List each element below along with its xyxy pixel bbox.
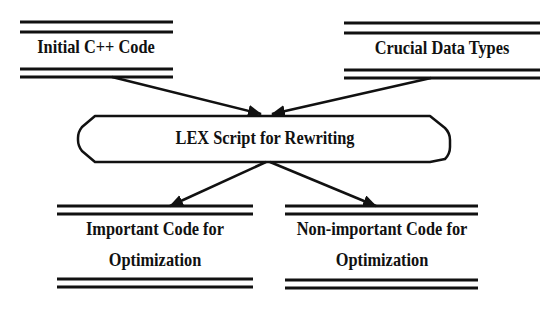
arrow-initial-to-lex — [112, 77, 261, 114]
arrow-lex-to-important — [170, 162, 266, 206]
node-label: Initial C++ Code — [37, 36, 155, 57]
node-crucial-data-types: Crucial Data Types — [353, 37, 532, 67]
node-label: LEX Script for Rewriting — [176, 127, 355, 148]
node-nonimportant-code: Non-important Code for Optimization — [290, 218, 474, 272]
node-initial-code: Initial C++ Code — [22, 36, 170, 66]
arrow-lex-to-nonimportant — [270, 162, 376, 206]
node-label: Crucial Data Types — [375, 37, 510, 58]
node-label-line1: Non-important Code for — [290, 218, 474, 241]
node-label-line2: Optimization — [65, 249, 246, 272]
node-label-line1: Important Code for — [65, 218, 246, 241]
node-label-line2: Optimization — [290, 249, 474, 272]
node-lex-script: LEX Script for Rewriting — [119, 127, 411, 149]
node-important-code: Important Code for Optimization — [65, 218, 246, 272]
arrow-datatypes-to-lex — [272, 78, 431, 114]
